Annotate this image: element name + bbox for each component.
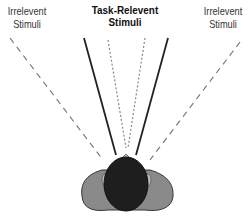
irrelevant-right-dashed-line [150, 42, 240, 160]
head-shape [104, 157, 148, 211]
relevant-right-solid-line [136, 38, 168, 155]
attention-field-diagram [0, 0, 249, 218]
focus-left-dotted-line [108, 40, 126, 148]
relevant-left-solid-line [84, 38, 116, 155]
